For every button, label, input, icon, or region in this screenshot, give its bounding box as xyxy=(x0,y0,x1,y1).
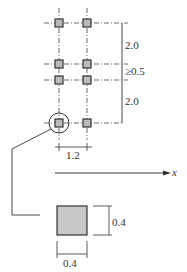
x-axis-label: x xyxy=(171,166,177,178)
detail-width-label: 0.4 xyxy=(63,257,77,269)
column-sections xyxy=(55,19,91,127)
leader-line xyxy=(12,129,51,215)
pile-layout-diagram: 2.0 ≥0.5 2.0 1.2 x 0.4 0.4 xyxy=(0,0,187,272)
dim-label-top: 2.0 xyxy=(125,39,139,51)
detail-width-dimension xyxy=(57,241,87,258)
x-axis-arrow xyxy=(55,171,171,176)
detail-height-dimension xyxy=(93,206,112,235)
dim-label-middle: ≥0.5 xyxy=(125,65,145,77)
detail-height-label: 0.4 xyxy=(112,216,126,228)
detail-section xyxy=(57,206,87,235)
dim-label-horizontal: 1.2 xyxy=(66,149,80,161)
dim-label-bottom: 2.0 xyxy=(125,95,139,107)
